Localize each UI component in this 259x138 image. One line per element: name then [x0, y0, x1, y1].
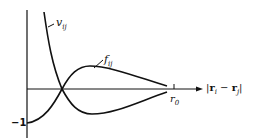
- r0-label: r0: [170, 93, 179, 107]
- x-axis-label: |ri − rj|: [206, 82, 242, 96]
- v-ij-leader: [48, 24, 54, 27]
- v-ij-label: vij: [56, 17, 67, 31]
- diagram-canvas: [0, 0, 259, 138]
- x-axis-arrow-icon: [196, 87, 203, 92]
- y-tick-minus-one: −1: [11, 117, 26, 128]
- f-ij-label: fij: [104, 54, 113, 68]
